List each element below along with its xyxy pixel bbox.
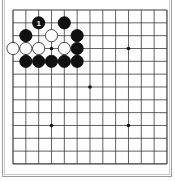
black-stone: [45, 55, 57, 67]
white-stone: [7, 42, 19, 54]
star-point-icon: [88, 85, 92, 89]
white-stone: [45, 30, 57, 42]
go-board[interactable]: 1: [0, 0, 175, 181]
black-stone: [71, 55, 83, 67]
black-stone: [58, 17, 70, 29]
black-stone: [71, 30, 83, 42]
move-number-label: 1: [36, 19, 41, 28]
black-stone: [20, 55, 32, 67]
stones: 1: [7, 17, 83, 68]
black-stone: 1: [33, 17, 45, 29]
white-stone: [33, 42, 45, 54]
star-point-icon: [127, 124, 131, 128]
white-stone: [58, 42, 70, 54]
black-stone: [58, 55, 70, 67]
star-point-icon: [50, 47, 54, 51]
star-point-icon: [50, 124, 54, 128]
white-stone: [20, 42, 32, 54]
star-point-icon: [127, 47, 131, 51]
black-stone: [33, 55, 45, 67]
black-stone: [71, 42, 83, 54]
black-stone: [20, 30, 32, 42]
